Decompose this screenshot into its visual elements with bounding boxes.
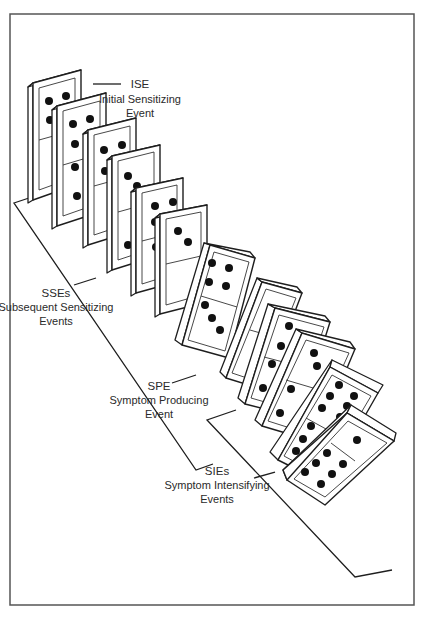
sses-line1: Subsequent Sensitizing	[0, 301, 113, 313]
sses-line2: Events	[39, 315, 73, 327]
sses-abbr: SSEs	[42, 287, 71, 299]
spe-line1: Symptom Producing	[109, 394, 208, 406]
sies-abbr: SIEs	[205, 465, 230, 477]
ise-line2: Event	[126, 107, 154, 119]
sies-line1: Symptom Intensifying	[164, 479, 269, 491]
domino-diagram: ISE Initial Sensitizing Event SSEs Subse…	[0, 0, 423, 619]
sies-line2: Events	[200, 493, 234, 505]
ise-line1: Initial Sensitizing	[99, 93, 181, 105]
spe-line2: Event	[145, 408, 173, 420]
ise-abbr: ISE	[131, 78, 150, 90]
spe-abbr: SPE	[147, 380, 170, 392]
diagram-stage: ISE Initial Sensitizing Event SSEs Subse…	[0, 0, 423, 619]
